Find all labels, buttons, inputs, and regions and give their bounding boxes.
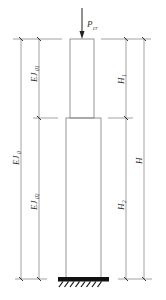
svg-text:02: 02 xyxy=(34,193,40,199)
svg-text:2: 2 xyxy=(121,200,127,203)
ground-hatch-icon xyxy=(59,282,102,288)
label-h2: H 2 xyxy=(116,200,127,211)
label-h: H xyxy=(134,157,144,165)
label-ej0: EJ 0 xyxy=(11,151,22,166)
label-h1: H 1 xyxy=(116,74,127,85)
svg-text:1: 1 xyxy=(121,74,127,77)
label-ej01: EJ 01 xyxy=(29,65,40,83)
svg-text:01: 01 xyxy=(34,65,40,71)
svg-text:P: P xyxy=(86,19,93,29)
load-arrow xyxy=(80,8,85,39)
svg-text:0: 0 xyxy=(16,151,22,154)
svg-text:H: H xyxy=(116,203,126,211)
upper-column-segment xyxy=(70,39,94,118)
svg-text:EJ: EJ xyxy=(29,200,39,211)
svg-text:EJ: EJ xyxy=(29,72,39,83)
lower-column-segment xyxy=(66,118,101,278)
svg-text:H: H xyxy=(116,77,126,85)
load-label: P cr xyxy=(86,19,98,31)
arrow-head-icon xyxy=(80,31,85,39)
svg-text:H: H xyxy=(134,157,144,165)
stepped-column-diagram: P cr xyxy=(0,0,166,300)
svg-text:EJ: EJ xyxy=(11,155,21,166)
fixed-base-plate xyxy=(58,277,109,282)
label-ej02: EJ 02 xyxy=(29,193,40,211)
right-dimension-lines xyxy=(101,37,152,281)
svg-text:cr: cr xyxy=(93,25,98,31)
